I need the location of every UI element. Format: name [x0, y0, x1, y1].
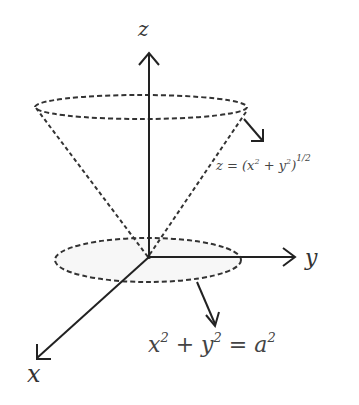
disk-annotation-arrow [197, 282, 215, 324]
cone-right-edge [148, 112, 246, 257]
origin-point [147, 255, 151, 259]
cone-equation: z = (x2 + y2)1/2 [215, 153, 311, 173]
cone-diagram: z y x z = (x2 + y2)1/2 x2 + y2 = a2 [0, 0, 359, 405]
cone-annotation-arrow [244, 119, 262, 140]
cone-left-edge [36, 108, 148, 257]
x-axis-label: x [27, 360, 41, 388]
y-axis-label: y [304, 245, 318, 270]
cone-top-ellipse [35, 95, 247, 119]
z-axis-label: z [137, 17, 149, 41]
disk-equation: x2 + y2 = a2 [148, 330, 276, 357]
